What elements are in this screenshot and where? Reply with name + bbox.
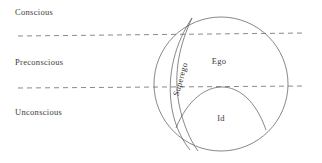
region-label-ego: Ego xyxy=(212,56,227,66)
psyche-diagram-page: Ego Id Superego Conscious Preconscious U… xyxy=(0,0,322,163)
preconscious-unconscious-divider xyxy=(18,86,306,88)
id-boundary-curve xyxy=(176,87,266,130)
conscious-preconscious-divider xyxy=(18,33,306,36)
region-label-superego: Superego xyxy=(171,61,190,97)
level-label-unconscious: Unconscious xyxy=(15,107,62,117)
level-label-preconscious: Preconscious xyxy=(15,57,63,67)
region-label-id: Id xyxy=(217,113,225,123)
psyche-diagram-canvas: Ego Id Superego xyxy=(0,0,322,163)
level-label-conscious: Conscious xyxy=(15,7,53,17)
